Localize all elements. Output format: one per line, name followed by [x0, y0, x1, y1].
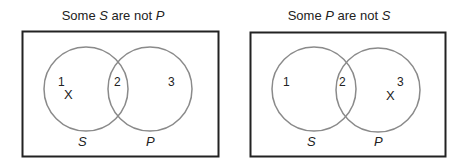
circle-p-label: P — [146, 134, 155, 149]
region-2-label: 2 — [114, 75, 121, 89]
region-3-label: 3 — [168, 75, 175, 89]
venn-diagram-some-p-not-s: Some P are not S 1 2 3 X S P — [226, 0, 452, 166]
region-2-label: 2 — [339, 75, 346, 89]
venn-diagram-some-s-not-p: Some S are not P 1 2 3 X S P — [0, 0, 226, 166]
universe-box — [251, 33, 446, 157]
circle-p-label: P — [374, 134, 383, 149]
region-3-label: 3 — [397, 75, 404, 89]
circle-p — [336, 48, 420, 132]
circle-p — [108, 47, 192, 131]
circle-s-label: S — [307, 134, 316, 149]
circle-s — [272, 47, 356, 131]
venn-svg: 1 2 3 X S P — [0, 0, 226, 166]
x-mark: X — [386, 88, 395, 103]
universe-box — [23, 32, 219, 157]
circle-s — [44, 47, 128, 131]
region-1-label: 1 — [283, 75, 290, 89]
circle-s-label: S — [78, 134, 87, 149]
x-mark: X — [64, 87, 73, 102]
venn-svg: 1 2 3 X S P — [226, 0, 452, 166]
